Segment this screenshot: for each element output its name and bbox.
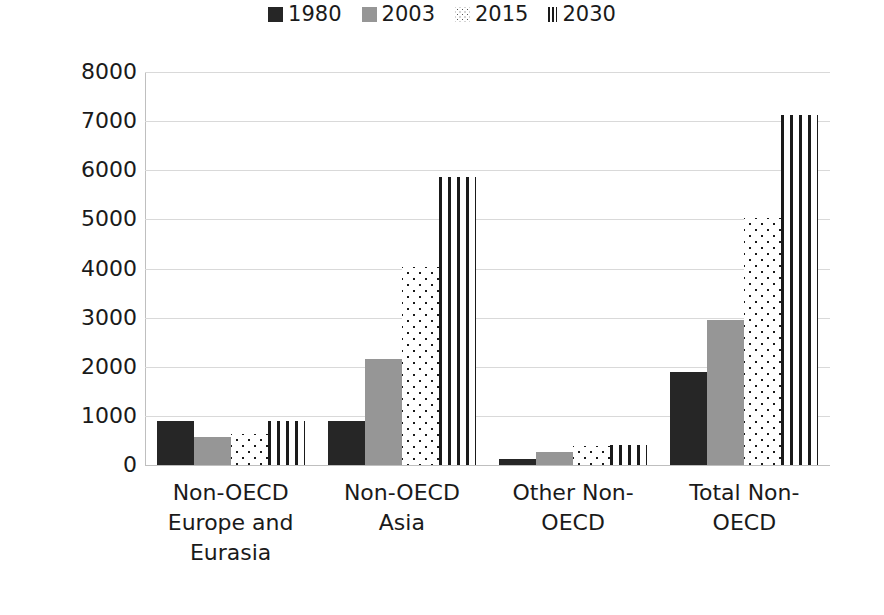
x-category-label: Non-OECDEurope andEurasia (145, 478, 316, 568)
x-category-label-line: Non-OECD (145, 478, 316, 508)
bar-2015[interactable] (402, 267, 439, 465)
x-category-label-line: Non-OECD (316, 478, 487, 508)
legend-label: 2003 (382, 4, 435, 25)
bar-2003[interactable] (536, 452, 573, 465)
y-tick-label: 3000 (37, 307, 137, 329)
legend-swatch-2003-icon (362, 7, 377, 22)
bar-2030[interactable] (781, 115, 818, 465)
legend-label: 2030 (562, 4, 615, 25)
legend-swatch-1980-icon (268, 7, 283, 22)
y-axis-labels: 800070006000500040003000200010000 (30, 72, 137, 465)
bar-group (659, 72, 830, 465)
y-tick-label: 1000 (37, 405, 137, 427)
gridline-0 (145, 465, 830, 466)
legend-swatch-2030-icon (548, 7, 557, 22)
bar-group (145, 72, 316, 465)
y-tick-label: 8000 (37, 61, 137, 83)
legend-entry-1980[interactable]: 1980 (268, 4, 341, 25)
x-category-label-line: Asia (316, 508, 487, 538)
legend-swatch-2015-icon (455, 7, 470, 22)
x-axis-labels: Non-OECDEurope andEurasiaNon-OECDAsiaOth… (145, 478, 830, 608)
y-tick-label: 5000 (37, 208, 137, 230)
chart-legend: 1980200320152030 (0, 4, 884, 25)
bar-2015[interactable] (231, 434, 268, 465)
y-tick-label: 7000 (37, 110, 137, 132)
y-tick-label: 4000 (37, 258, 137, 280)
legend-entry-2003[interactable]: 2003 (362, 4, 435, 25)
y-tick-label: 0 (37, 454, 137, 476)
legend-label: 1980 (288, 4, 341, 25)
x-category-label-line: Eurasia (145, 538, 316, 568)
bar-1980[interactable] (157, 421, 194, 465)
x-category-label-line: OECD (488, 508, 659, 538)
bar-group (316, 72, 487, 465)
bar-1980[interactable] (670, 372, 707, 465)
x-category-label-line: Europe and (145, 508, 316, 538)
bar-2030[interactable] (610, 445, 647, 465)
legend-entry-2015[interactable]: 2015 (455, 4, 528, 25)
bar-1980[interactable] (499, 459, 536, 465)
bar-2003[interactable] (365, 359, 402, 465)
bar-2003[interactable] (194, 437, 231, 465)
x-category-label-line: Other Non- (488, 478, 659, 508)
legend-entry-2030[interactable]: 2030 (548, 4, 615, 25)
bar-group (488, 72, 659, 465)
x-category-label: Other Non-OECD (488, 478, 659, 538)
legend-label: 2015 (475, 4, 528, 25)
y-tick-label: 6000 (37, 159, 137, 181)
x-category-label-line: OECD (659, 508, 830, 538)
bar-2015[interactable] (573, 446, 610, 465)
bar-1980[interactable] (328, 421, 365, 465)
bar-2030[interactable] (439, 177, 476, 465)
bar-2030[interactable] (268, 421, 305, 465)
x-category-label: Non-OECDAsia (316, 478, 487, 538)
x-category-label: Total Non-OECD (659, 478, 830, 538)
bar-chart: 1980200320152030 80007000600050004000300… (0, 0, 884, 615)
bar-2003[interactable] (707, 320, 744, 465)
y-tick-label: 2000 (37, 356, 137, 378)
bars-layer (145, 72, 830, 465)
bar-2015[interactable] (744, 218, 781, 465)
x-category-label-line: Total Non- (659, 478, 830, 508)
